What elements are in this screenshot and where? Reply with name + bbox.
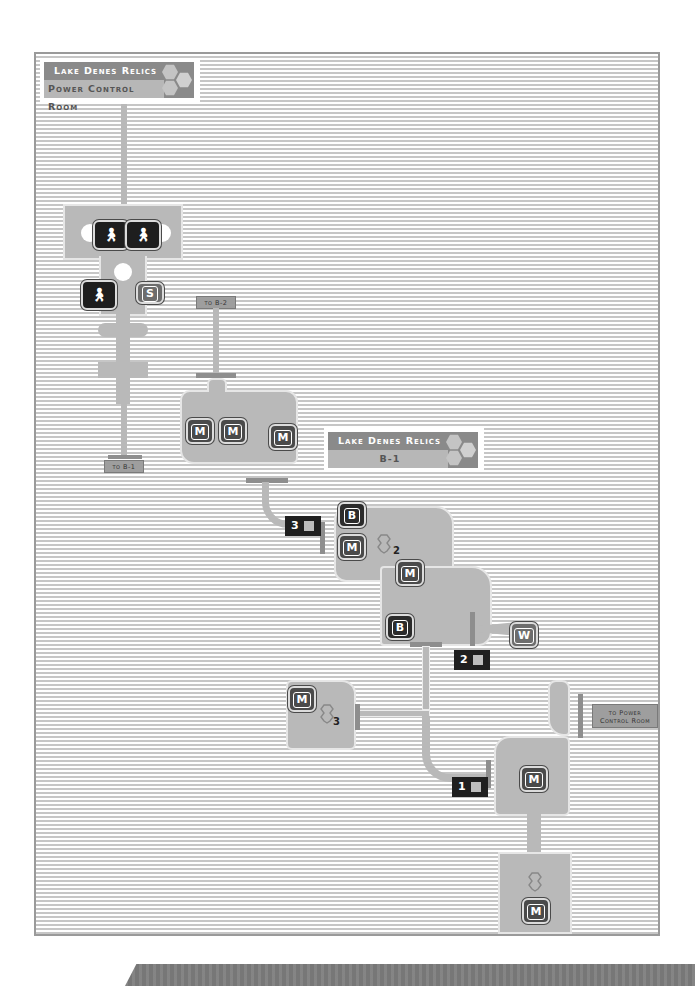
warp-letter: W [514,628,534,644]
hexagon-icon [446,450,462,466]
corridor [422,646,430,710]
switch-2[interactable]: 2 [454,650,490,670]
switch-square-icon [471,782,481,792]
corridor [358,710,430,717]
doorway [470,612,475,646]
person-icon: 🚶︎ [91,287,108,302]
exit-label-to-power-control-room[interactable]: to PowerControl Room [592,704,658,728]
stairs-icon [377,534,391,554]
monster-letter: M [274,430,293,446]
doorway [578,694,583,738]
npc-marker[interactable]: 🚶︎ [125,220,161,250]
save-letter: S [142,286,158,302]
stairs-number: 3 [333,716,340,727]
monster-marker[interactable]: M [396,560,424,586]
exit-label-text: to B-2 [205,299,228,307]
stairs-icon [528,872,542,892]
monster-marker[interactable]: M [219,418,247,444]
doorway [355,704,360,730]
light-orb [114,263,132,281]
corridor [121,400,127,458]
monster-letter: M [293,692,312,708]
hexagon-icon [162,80,178,96]
monster-letter: M [525,772,544,788]
room-b1-east-passage [548,680,570,736]
exit-label-text: to Power [593,709,657,717]
monster-marker[interactable]: M [522,898,550,924]
banner-floor-name: B-1 [328,450,448,468]
exit-label-to-b1[interactable]: to B-1 [104,460,144,473]
decorative-footer-bar [125,964,695,986]
banner-floor-name: Power Control Room [44,80,164,98]
warp-marker[interactable]: W [510,622,538,648]
switch-number: 3 [291,519,299,532]
corridor-node [98,323,148,337]
monster-marker[interactable]: M [338,534,366,560]
exit-label-text: Control Room [593,717,657,725]
switch-number: 1 [458,780,466,793]
save-point-marker[interactable]: S [136,282,164,304]
monster-marker[interactable]: M [186,418,214,444]
monster-letter: M [224,424,243,440]
corridor-curved [422,716,486,782]
monster-letter: M [527,904,546,920]
monster-marker[interactable]: M [288,686,316,712]
switch-square-icon [473,655,483,665]
corridor-crossbar [98,362,148,378]
boss-letter: B [344,508,360,524]
monster-marker[interactable]: M [269,424,297,450]
monster-letter: M [401,566,420,582]
exit-label-text: to B-1 [113,463,136,471]
stairs-icon [320,704,334,724]
switch-number: 2 [460,653,468,666]
title-banner-b1: Lake Denes Relics B-1 [324,428,484,472]
corridor [213,308,219,376]
person-icon: 🚶︎ [135,227,152,242]
person-icon: 🚶︎ [103,227,120,242]
monster-letter: M [191,424,210,440]
switch-3[interactable]: 3 [285,516,321,536]
npc-marker[interactable]: 🚶︎ [93,220,129,250]
switch-1[interactable]: 1 [452,777,488,797]
switch-square-icon [304,521,314,531]
room-b1-northwest-nub [207,378,227,392]
title-banner-power-control-room: Lake Denes Relics Power Control Room [40,58,200,102]
boss-marker[interactable]: B [338,502,366,528]
boss-letter: B [392,620,408,636]
monster-marker[interactable]: M [520,766,548,792]
npc-marker[interactable]: 🚶︎ [81,280,117,310]
corridor [527,814,541,854]
boss-marker[interactable]: B [386,614,414,640]
stairs-number: 2 [393,545,400,556]
monster-letter: M [343,540,362,556]
doorway [108,455,142,459]
corridor [121,104,127,204]
